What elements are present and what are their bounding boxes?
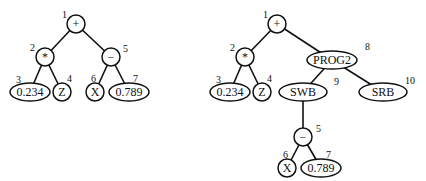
node-label: X: [283, 161, 292, 175]
node-label: −: [108, 50, 115, 64]
node-label: 0.789: [116, 85, 143, 99]
node-label: 0.234: [17, 85, 44, 99]
node-index: 6: [283, 149, 288, 160]
node-x: X6: [278, 149, 296, 177]
node-index: 3: [216, 74, 221, 85]
node-plus: +1: [62, 9, 85, 33]
node-index: 5: [316, 123, 321, 134]
node-label: +: [274, 17, 281, 31]
node-label: 0.789: [308, 161, 335, 175]
node-label: +: [73, 17, 80, 31]
node-index: 3: [16, 74, 21, 85]
node-index: 8: [365, 41, 370, 52]
node-label: X: [91, 85, 100, 99]
node-label: *: [242, 50, 248, 64]
node-label: SRB: [372, 85, 395, 99]
node-label: Z: [258, 85, 265, 99]
node-0-789: 0.7897: [109, 73, 149, 101]
node-index: 7: [133, 73, 138, 84]
node-label: PROG2: [313, 53, 351, 67]
node-index: 10: [405, 75, 415, 86]
node-0-789: 0.7897: [301, 149, 341, 177]
node-index: 9: [334, 76, 339, 87]
node-times: *2: [30, 42, 54, 66]
node-minus: −5: [102, 43, 128, 66]
node-index: 7: [326, 149, 331, 160]
node-index: 4: [267, 73, 272, 84]
node-index: 4: [67, 73, 72, 84]
node-times: *2: [230, 42, 254, 66]
node-0-234: 0.2343: [10, 74, 50, 101]
node-swb: SWB9: [279, 76, 339, 101]
node-index: 1: [263, 9, 268, 20]
node-srb: SRB10: [359, 75, 415, 101]
node-index: 1: [62, 9, 67, 20]
modified-tree: +1*2PROG280.2343Z4SWB9SRB10−5X60.7897: [210, 9, 415, 177]
node-index: 2: [230, 42, 235, 53]
node-index: 2: [30, 42, 35, 53]
node-index: 5: [123, 43, 128, 54]
node-0-234: 0.2343: [210, 74, 250, 101]
node-label: Z: [58, 85, 65, 99]
original-tree: +1*2−50.2343Z4X60.7897: [10, 9, 149, 101]
node-label: −: [300, 130, 307, 144]
node-index: 6: [91, 73, 96, 84]
node-z: Z4: [253, 73, 272, 101]
node-minus: −5: [294, 123, 321, 146]
expression-trees-diagram: +1*2−50.2343Z4X60.7897 +1*2PROG280.2343Z…: [0, 0, 426, 181]
node-prog2: PROG28: [307, 41, 370, 69]
node-plus: +1: [263, 9, 286, 33]
node-label: SWB: [290, 85, 316, 99]
node-label: 0.234: [217, 85, 244, 99]
node-z: Z4: [53, 73, 72, 101]
node-label: *: [42, 50, 48, 64]
